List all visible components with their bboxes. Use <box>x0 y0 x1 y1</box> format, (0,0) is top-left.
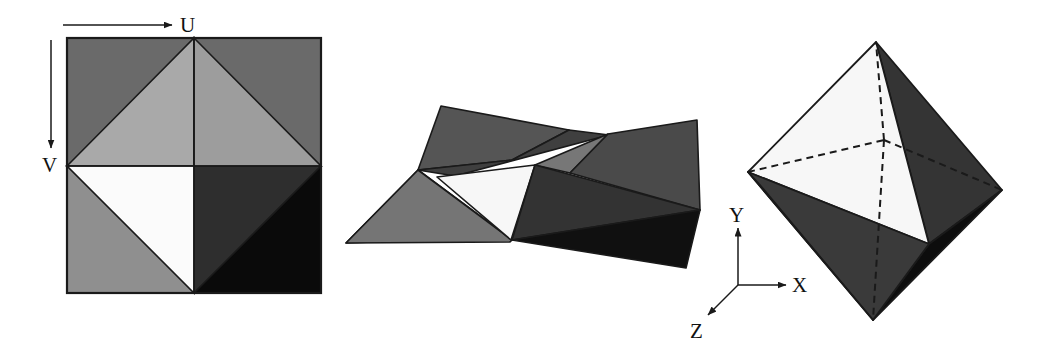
y-axis-label: Y <box>729 203 744 227</box>
v-axis-label: V <box>42 153 57 177</box>
x-axis-label: X <box>792 273 807 297</box>
figure-canvas: U V <box>0 0 1047 349</box>
z-axis-label: Z <box>690 319 703 343</box>
panel-uv-texture-square: U V <box>42 13 321 293</box>
u-axis-label: U <box>180 13 195 37</box>
figure-root: U V <box>0 0 1047 349</box>
